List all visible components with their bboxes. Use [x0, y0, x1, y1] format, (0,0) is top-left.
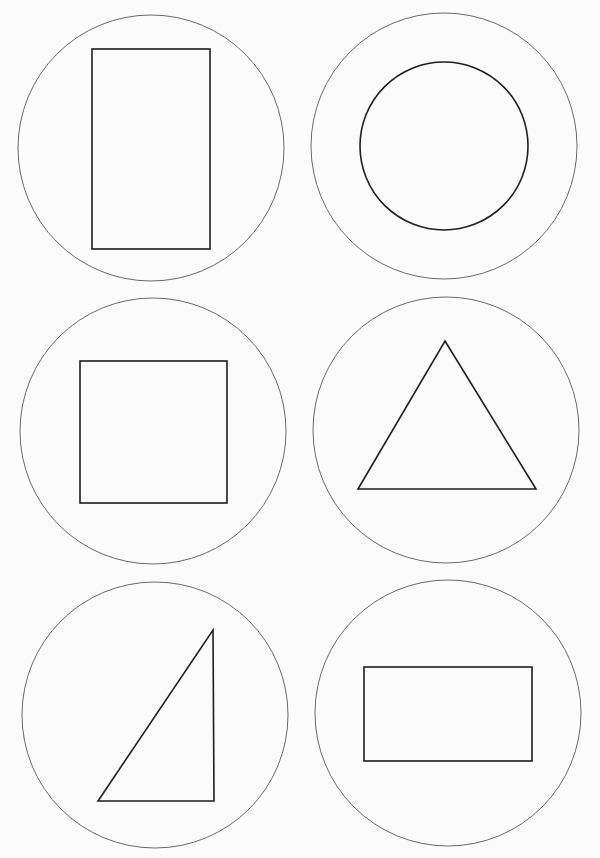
- inner-circle-icon: [360, 62, 528, 230]
- right-triangle-icon: [98, 630, 214, 801]
- outer-circle-icon: [313, 297, 579, 563]
- shapes-sheet: [0, 0, 600, 858]
- equilateral-triangle-icon: [358, 341, 536, 489]
- outer-circle-icon: [20, 298, 286, 564]
- wide-rectangle-icon: [364, 667, 532, 761]
- outer-circle-icon: [311, 13, 577, 279]
- square-icon: [80, 361, 227, 503]
- tall-rectangle-icon: [92, 49, 210, 249]
- panel-tall-rectangle: [18, 15, 284, 281]
- shapes-drawing: [0, 0, 600, 858]
- panel-wide-rectangle: [315, 580, 581, 846]
- panel-square: [20, 298, 286, 564]
- panel-circle: [311, 13, 577, 279]
- panel-right-triangle: [22, 582, 288, 848]
- outer-circle-icon: [315, 580, 581, 846]
- panel-equilateral-triangle: [313, 297, 579, 563]
- outer-circle-icon: [18, 15, 284, 281]
